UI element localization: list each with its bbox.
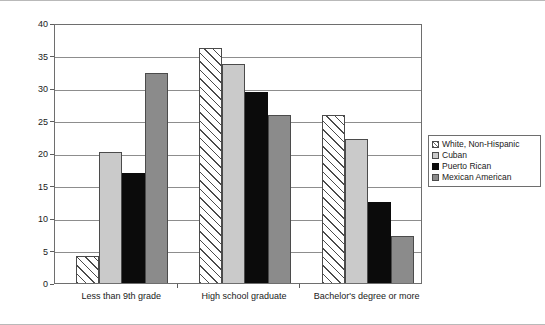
bar[interactable]	[222, 64, 245, 283]
legend-item-label: White, Non-Hispanic	[442, 139, 519, 150]
chart-frame: Percent 0510152025303540 Less than 9th g…	[0, 0, 545, 325]
bar[interactable]	[245, 92, 268, 283]
bar[interactable]	[145, 73, 168, 283]
bar[interactable]	[368, 202, 391, 283]
legend-item-label: Puerto Rican	[442, 161, 491, 172]
bar[interactable]	[76, 256, 99, 283]
bar-group	[199, 25, 291, 283]
legend-item[interactable]: Puerto Rican	[432, 161, 536, 172]
bar[interactable]	[322, 115, 345, 283]
legend-item-label: Cuban	[442, 150, 467, 161]
y-axis-tick-label: 0	[0, 278, 48, 290]
legend-swatch-icon	[432, 174, 439, 181]
x-axis-tick-mark	[177, 284, 178, 288]
y-axis-tick-label: 25	[0, 116, 48, 128]
legend-item[interactable]: Mexican American	[432, 172, 536, 183]
bar[interactable]	[199, 48, 222, 283]
legend-item-label: Mexican American	[442, 172, 511, 183]
x-axis-tick-mark	[299, 284, 300, 288]
y-axis-tick-label: 15	[0, 181, 48, 193]
y-axis-tick-label: 10	[0, 213, 48, 225]
legend-swatch-icon	[432, 163, 439, 170]
legend-item[interactable]: Cuban	[432, 150, 536, 161]
bar[interactable]	[345, 139, 368, 283]
y-axis-tick-label: 5	[0, 246, 48, 258]
x-axis-label: Bachelor's degree or more	[314, 291, 420, 301]
legend-swatch-icon	[432, 152, 439, 159]
chart-legend: White, Non-HispanicCubanPuerto RicanMexi…	[428, 135, 541, 187]
x-axis-label: Less than 9th grade	[82, 291, 162, 301]
legend-item[interactable]: White, Non-Hispanic	[432, 139, 536, 150]
bar-group	[322, 25, 414, 283]
legend-swatch-icon	[432, 141, 439, 148]
bar[interactable]	[391, 236, 414, 283]
bar[interactable]	[99, 152, 122, 283]
x-axis-label: High school graduate	[201, 291, 286, 301]
y-axis-tick-label: 35	[0, 51, 48, 63]
bar[interactable]	[122, 173, 145, 284]
plot-area	[54, 24, 422, 284]
y-axis-tick-label: 20	[0, 148, 48, 160]
bar-group	[76, 25, 168, 283]
bar[interactable]	[268, 115, 291, 283]
y-axis-tick-label: 30	[0, 83, 48, 95]
y-axis-tick-label: 40	[0, 18, 48, 30]
